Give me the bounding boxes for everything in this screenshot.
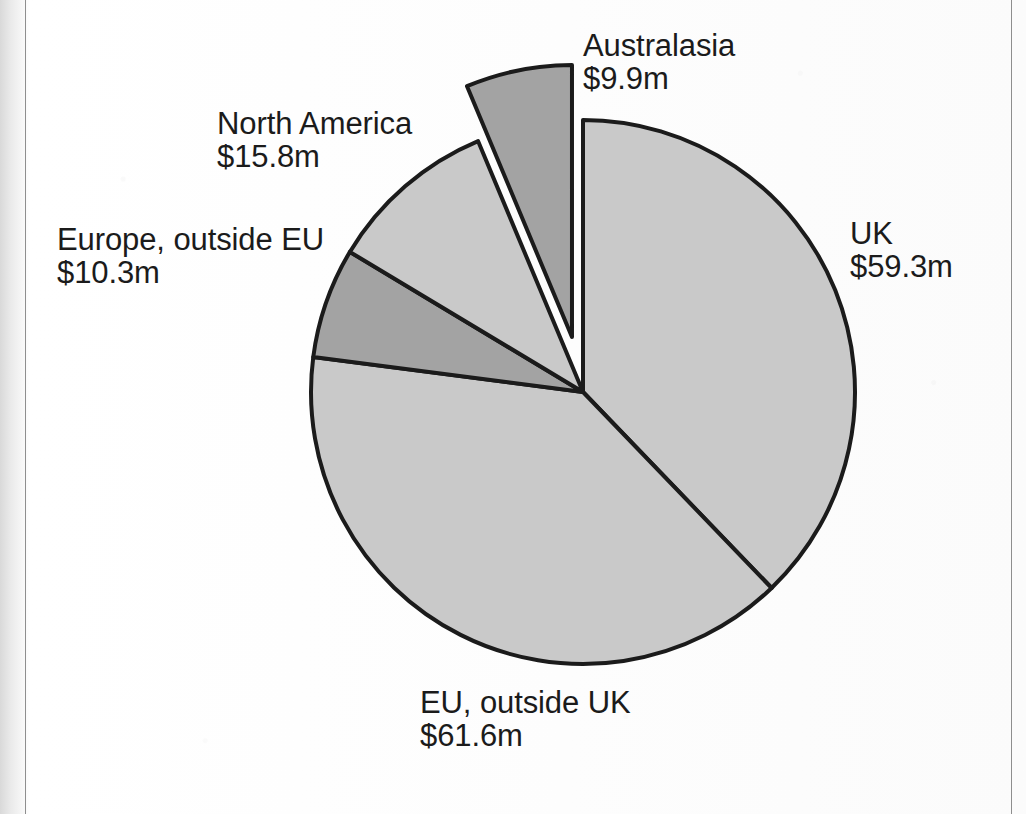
scanned-page: Australasia $9.9m North America $15.8m E… (0, 0, 1026, 814)
slice-label-eu-outside-uk: EU, outside UK $61.6m (420, 687, 631, 753)
slice-label-eu-outside-uk-name: EU, outside UK (420, 687, 631, 720)
slice-label-eu-outside-uk-value: $61.6m (420, 720, 631, 753)
pie-chart: Australasia $9.9m North America $15.8m E… (0, 0, 1026, 814)
slice-label-uk: UK $59.3m (850, 218, 953, 284)
slice-label-australasia-name: Australasia (583, 30, 735, 63)
slice-label-europe-outside-eu-name: Europe, outside EU (57, 224, 324, 257)
slice-label-uk-name: UK (850, 218, 953, 251)
slice-label-australasia-value: $9.9m (583, 63, 735, 96)
slice-label-north-america-value: $15.8m (217, 141, 412, 174)
slice-label-europe-outside-eu-value: $10.3m (57, 257, 324, 290)
slice-label-europe-outside-eu: Europe, outside EU $10.3m (57, 224, 324, 290)
slice-label-north-america: North America $15.8m (217, 108, 412, 174)
slice-label-uk-value: $59.3m (850, 251, 953, 284)
slice-label-north-america-name: North America (217, 108, 412, 141)
slice-label-australasia: Australasia $9.9m (583, 30, 735, 96)
